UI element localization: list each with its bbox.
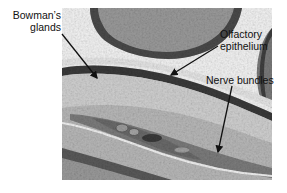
nerve-bundles-arrow bbox=[218, 86, 232, 152]
olfactory-epithelium-label-line1: Olfactory bbox=[220, 28, 280, 40]
nerve-bundles-label-line1: Nerve bundles bbox=[206, 74, 281, 86]
nerve-bundles-label: Nerve bundles bbox=[206, 74, 281, 86]
bowmans-glands-arrow bbox=[62, 34, 97, 78]
bowmans-glands-label-line1: Bowman’s bbox=[9, 9, 61, 21]
olfactory-epithelium-label-line2: epithelium bbox=[220, 40, 280, 52]
bowmans-glands-label-line2: glands bbox=[9, 21, 61, 33]
olfactory-epithelium-label: Olfactory epithelium bbox=[220, 28, 280, 52]
olfactory-epithelium-arrow bbox=[171, 46, 218, 75]
bowmans-glands-label: Bowman’s glands bbox=[9, 9, 61, 33]
